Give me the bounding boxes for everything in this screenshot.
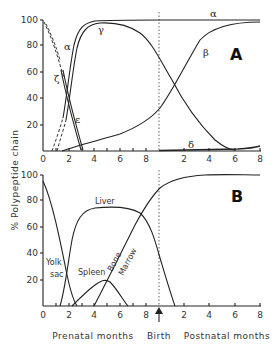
b-xtick-4: 4 [91,310,97,320]
label-epsilon: ε [75,114,80,125]
panel-b-letter: B [231,187,243,206]
birth-label: Birth [147,331,171,341]
panel-a-letter: A [230,45,243,64]
zeta-dashed-curve [44,22,64,78]
spleen-curve [72,280,128,306]
panel-b-y-ticks: 100 80 60 40 20 [21,170,43,285]
b-ytick-80: 80 [27,195,39,205]
a-ytick-20: 20 [27,120,39,130]
b-xtick-post-2: 2 [181,310,187,320]
beta-curve [62,22,260,151]
label-marrow: Marrow [117,246,139,277]
a-ytick-40: 40 [27,93,39,103]
b-ytick-20: 20 [27,275,39,285]
label-beta: β [203,47,209,58]
panel-a: 100 80 60 40 20 0 2 4 6 8 2 4 [21,8,263,164]
birth-arrow-icon [155,307,163,322]
b-ytick-100: 100 [21,170,38,180]
postnatal-label: Postnatal months [184,331,270,341]
b-ytick-60: 60 [27,222,39,232]
b-xtick-8: 8 [143,310,149,320]
label-delta: δ [188,139,194,150]
a-xtick-6: 6 [117,154,123,164]
label-sac: sac [50,270,63,279]
globin-chart: 100 80 60 40 20 0 2 4 6 8 2 4 [0,0,276,347]
b-ytick-40: 40 [27,248,39,258]
epsilon-curve [63,70,83,150]
b-xtick-0: 0 [40,310,46,320]
a-xtick-2: 2 [66,154,72,164]
alpha-curve [63,20,260,118]
a-xtick-8: 8 [143,154,149,164]
label-alpha: α [64,41,71,52]
label-spleen: Spleen [78,268,105,277]
b-xtick-6: 6 [117,310,123,320]
gamma-dashed-start [57,120,66,151]
a-ytick-80: 80 [27,40,39,50]
a-xtick-post-4: 4 [206,154,212,164]
gamma-curve [66,23,235,150]
label-gamma: γ [98,24,104,35]
b-xtick-2: 2 [66,310,72,320]
a-xtick-0: 0 [40,154,46,164]
a-ytick-100: 100 [21,15,38,25]
panel-a-y-ticks: 100 80 60 40 20 [21,15,43,130]
label-zeta: ζ [54,73,60,84]
b-xtick-post-8: 8 [257,310,263,320]
a-xtick-post-2: 2 [181,154,187,164]
a-xtick-post-6: 6 [232,154,238,164]
b-xtick-post-4: 4 [206,310,212,320]
a-ytick-60: 60 [27,67,39,77]
label-liver: Liver [95,197,115,206]
label-yolk: Yolk [45,258,62,267]
b-xtick-post-6: 6 [232,310,238,320]
y-axis-title: % Polypeptide chain [10,130,20,231]
a-xtick-4: 4 [91,154,97,164]
a-xtick-post-8: 8 [257,154,263,164]
panel-b: 100 80 60 40 20 0 2 4 6 8 2 4 6 [21,170,270,341]
label-alpha-right: α [210,8,217,19]
panel-a-x-ticks: 0 2 4 6 8 2 4 6 8 [40,148,263,164]
prenatal-label: Prenatal months [52,331,133,341]
